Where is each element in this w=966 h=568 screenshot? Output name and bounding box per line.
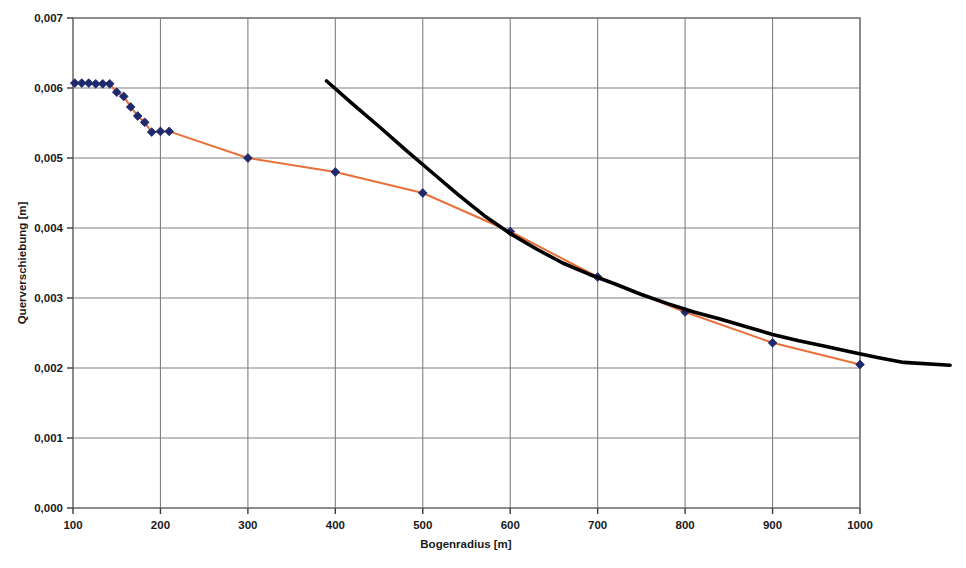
x-tick-label: 300 bbox=[238, 519, 257, 531]
y-tick-label: 0,002 bbox=[34, 362, 63, 374]
y-tick-label: 0,004 bbox=[34, 222, 63, 234]
x-tick-label: 800 bbox=[676, 519, 695, 531]
x-tick-label: 100 bbox=[63, 519, 82, 531]
y-axis-title: Querverschiebung [m] bbox=[16, 201, 28, 324]
x-tick-label: 500 bbox=[413, 519, 432, 531]
chart-container: 10020030040050060070080090010000,0000,00… bbox=[0, 0, 966, 568]
x-tick-label: 600 bbox=[501, 519, 520, 531]
y-tick-label: 0,006 bbox=[34, 82, 63, 94]
y-tick-label: 0,000 bbox=[34, 502, 63, 514]
y-tick-label: 0,003 bbox=[34, 292, 63, 304]
y-tick-label: 0,001 bbox=[34, 432, 63, 444]
x-tick-label: 200 bbox=[151, 519, 170, 531]
x-tick-label: 400 bbox=[326, 519, 345, 531]
x-tick-label: 1000 bbox=[847, 519, 873, 531]
y-tick-label: 0,005 bbox=[34, 152, 63, 164]
line-chart: 10020030040050060070080090010000,0000,00… bbox=[0, 0, 966, 568]
x-tick-label: 700 bbox=[588, 519, 607, 531]
x-axis-title: Bogenradius [m] bbox=[420, 538, 512, 550]
x-tick-label: 900 bbox=[763, 519, 782, 531]
chart-background bbox=[0, 0, 966, 568]
y-tick-label: 0,007 bbox=[34, 12, 63, 24]
